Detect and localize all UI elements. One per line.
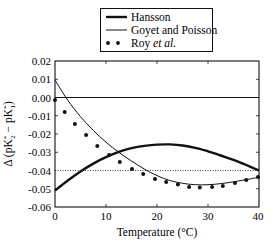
svg-text:0.01: 0.01 <box>32 73 51 85</box>
svg-text:-0.05: -0.05 <box>28 183 51 195</box>
chart: Hansson Goyet and Poisson Roy et al. 0.0… <box>0 0 273 252</box>
data-point <box>233 181 237 185</box>
svg-text:-0.03: -0.03 <box>28 146 51 158</box>
data-point <box>141 172 145 176</box>
legend-label-goyet: Goyet and Poisson <box>131 24 218 37</box>
svg-text:20: 20 <box>152 210 164 222</box>
x-axis-label: Temperature (°C) <box>117 226 198 239</box>
x-tick-labels: 0 10 20 30 40 <box>52 210 264 222</box>
data-point <box>176 183 180 187</box>
legend-label-hansson: Hansson <box>131 11 171 23</box>
svg-text:-0.01: -0.01 <box>28 110 51 122</box>
svg-text:30: 30 <box>203 210 215 222</box>
data-point <box>53 98 57 102</box>
legend: Hansson Goyet and Poisson Roy et al. <box>101 9 218 52</box>
svg-text:40: 40 <box>253 210 265 222</box>
legend-label-roy: Roy et al. <box>131 37 176 50</box>
data-point <box>198 186 202 190</box>
data-point <box>118 160 122 164</box>
y-tick-labels: 0.02 0.01 0.00 -0.01 -0.02 -0.03 -0.04 -… <box>28 55 51 213</box>
plot-area <box>53 80 260 190</box>
svg-text:-0.06: -0.06 <box>28 201 51 213</box>
svg-text:-0.02: -0.02 <box>28 128 51 140</box>
y-axis-label: Δ (pK*2 − pK*1) <box>2 101 17 167</box>
data-point <box>256 175 260 179</box>
svg-text:10: 10 <box>101 210 113 222</box>
data-point <box>210 185 214 189</box>
data-point <box>63 110 67 114</box>
legend-swatch-roy-dot <box>106 41 110 45</box>
data-point <box>153 177 157 181</box>
data-point <box>164 180 168 184</box>
svg-text:-0.04: -0.04 <box>28 165 51 177</box>
data-point <box>187 185 191 189</box>
legend-swatch-roy-dot <box>116 41 120 45</box>
data-point <box>107 153 111 157</box>
series-hansson-line <box>55 144 259 190</box>
data-point <box>84 133 88 137</box>
data-point <box>95 144 99 148</box>
data-point <box>244 178 248 182</box>
svg-text:0.00: 0.00 <box>32 92 52 104</box>
data-point <box>221 184 225 188</box>
svg-text:0: 0 <box>52 210 58 222</box>
data-point <box>73 122 77 126</box>
data-point <box>130 167 134 171</box>
svg-text:0.02: 0.02 <box>32 55 51 67</box>
x-ticks <box>106 61 208 207</box>
